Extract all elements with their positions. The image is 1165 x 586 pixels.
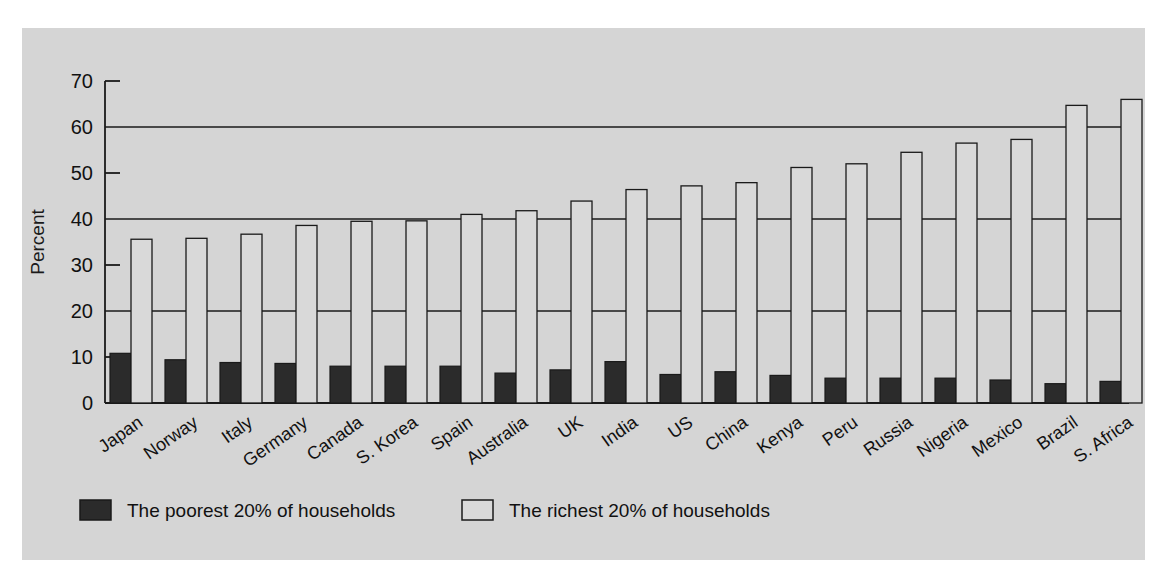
y-tick-label-60: 60 [71,116,93,138]
bar-richest-russia [901,152,922,403]
x-category-label: UK [554,412,586,443]
bar-poorest-australia [495,373,516,403]
x-axis-category-labels: JapanNorwayItalyGermanyCanadaS. KoreaSpa… [95,411,1137,470]
bar-poorest-russia [880,378,901,403]
y-tick-label-70: 70 [71,70,93,92]
legend-label: The poorest 20% of households [127,500,395,521]
bar-poorest-uk [550,370,571,403]
x-category-label: Nigeria [913,411,972,461]
y-tick-label-10: 10 [71,346,93,368]
legend-label: The richest 20% of households [509,500,770,521]
bar-richest-us [681,186,702,403]
legend-swatch-dark [80,500,111,520]
bar-richest-kenya [791,167,812,403]
bar-poorest-peru [825,378,846,403]
bar-poorest-mexico [990,380,1011,403]
bar-richest-norway [186,238,207,403]
x-category-label: Japan [95,412,147,457]
bar-chart: 010203040506070 JapanNorwayItalyGermanyC… [22,28,1145,560]
x-category-label: Kenya [753,411,807,457]
bar-poorest-s-korea [385,366,406,403]
chart-legend: The poorest 20% of householdsThe richest… [80,500,770,521]
bar-richest-germany [296,225,317,403]
bar-series-group [110,99,1142,403]
bar-richest-brazil [1066,105,1087,403]
x-category-label: Australia [462,411,532,468]
chart-panel: 010203040506070 JapanNorwayItalyGermanyC… [22,28,1145,560]
x-category-label: Italy [218,412,257,447]
bar-poorest-italy [220,363,241,403]
y-axis-title: Percent [27,209,48,275]
x-category-label: Norway [140,412,201,463]
bar-poorest-s-africa [1100,381,1121,403]
x-category-label: S. Africa [1070,411,1137,466]
bar-poorest-canada [330,366,351,403]
bar-poorest-germany [275,363,296,403]
x-category-label: US [664,412,696,443]
y-axis-title-text: Percent [27,209,48,275]
x-category-label: Russia [860,411,917,460]
bar-poorest-brazil [1045,384,1066,403]
bar-richest-india [626,190,647,403]
y-tick-label-30: 30 [71,254,93,276]
bar-poorest-china [715,372,736,403]
bar-poorest-india [605,362,626,403]
bar-poorest-norway [165,360,186,403]
bar-richest-peru [846,164,867,403]
bar-richest-uk [571,201,592,403]
figure-root: 010203040506070 JapanNorwayItalyGermanyC… [0,0,1165,586]
bar-richest-japan [131,239,152,403]
bar-richest-spain [461,214,482,403]
bar-poorest-us [660,374,681,403]
bar-poorest-kenya [770,375,791,403]
x-category-label: Peru [819,412,862,450]
bar-poorest-spain [440,366,461,403]
bar-richest-nigeria [956,143,977,403]
y-tick-label-40: 40 [71,208,93,230]
x-category-label: Mexico [968,412,1026,461]
bar-richest-canada [351,221,372,403]
bar-richest-australia [516,211,537,403]
bar-richest-s-africa [1121,99,1142,403]
y-tick-label-20: 20 [71,300,93,322]
bar-richest-italy [241,234,262,403]
x-category-label: India [598,411,642,450]
x-category-label: S. Korea [352,411,422,468]
bar-richest-s-korea [406,221,427,403]
y-tick-label-0: 0 [82,392,93,414]
bar-poorest-japan [110,353,131,403]
legend-swatch-light [462,500,493,520]
x-category-label: China [701,411,752,455]
bar-poorest-nigeria [935,378,956,403]
bar-richest-mexico [1011,139,1032,403]
y-tick-label-50: 50 [71,162,93,184]
bar-richest-china [736,183,757,403]
